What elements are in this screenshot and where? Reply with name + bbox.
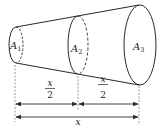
dimension-label-half-2: x 2 (98, 74, 108, 100)
svg-text:2: 2 (100, 90, 106, 100)
svg-text:2: 2 (47, 90, 53, 100)
svg-text:x: x (100, 74, 105, 84)
svg-text:x: x (47, 78, 52, 88)
frustum-diagram: A1 A2 A3 x 2 x 2 x (0, 0, 168, 133)
dimension-label-total: x (75, 117, 80, 127)
dimension-label-half-1: x 2 (45, 78, 55, 100)
label-a3: A3 (132, 41, 144, 54)
label-a1: A1 (9, 40, 21, 53)
label-a2: A2 (70, 43, 82, 56)
